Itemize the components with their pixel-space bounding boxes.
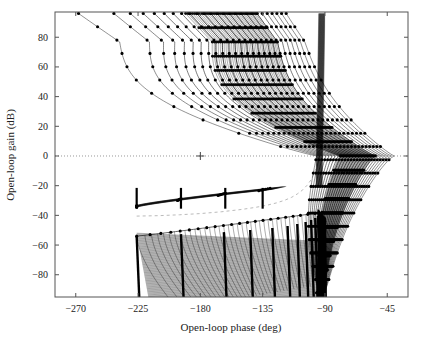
data-point-marker: [192, 52, 195, 55]
data-point-marker: [375, 145, 378, 148]
data-point-marker: [323, 92, 326, 95]
data-point-marker: [311, 118, 314, 121]
data-point-marker: [284, 216, 287, 219]
data-point-marker: [323, 105, 326, 108]
data-point-marker: [346, 145, 349, 148]
data-point-marker: [231, 105, 234, 108]
data-point-marker: [326, 269, 329, 272]
data-point-marker: [254, 220, 257, 223]
data-point-marker: [172, 105, 175, 108]
data-point-marker: [216, 65, 219, 68]
data-point-marker: [221, 78, 224, 81]
data-point-marker: [327, 278, 330, 281]
data-point-marker: [280, 118, 283, 121]
nichols-chart-figure: −270−225−180−135−90−45 806040200−20−40−6…: [0, 0, 425, 347]
data-point-marker: [214, 225, 217, 228]
data-point-marker: [258, 118, 261, 121]
data-point-marker: [313, 212, 316, 215]
data-point-marker: [173, 52, 176, 55]
data-point-marker: [284, 52, 287, 55]
data-point-marker: [207, 52, 210, 55]
data-point-marker: [278, 132, 281, 135]
data-point-marker: [329, 254, 332, 257]
data-point-marker: [246, 52, 249, 55]
data-point-marker: [336, 251, 339, 254]
data-point-marker: [289, 25, 292, 28]
data-point-marker: [292, 215, 295, 218]
data-point-marker: [331, 118, 334, 121]
data-point-marker: [170, 78, 173, 81]
data-point-marker: [225, 118, 228, 121]
data-point-marker: [331, 126, 334, 129]
data-point-marker: [338, 105, 341, 108]
data-point-marker: [387, 158, 390, 161]
data-point-marker: [151, 65, 154, 68]
data-point-marker: [309, 78, 312, 81]
data-point-marker: [279, 52, 282, 55]
data-point-marker: [266, 78, 269, 81]
data-point-marker: [221, 52, 224, 55]
data-point-marker: [171, 92, 174, 95]
data-point-marker: [288, 65, 291, 68]
data-point-marker: [351, 132, 354, 135]
data-point-marker: [238, 222, 241, 225]
data-point-marker: [320, 132, 323, 135]
data-point-marker: [329, 158, 332, 161]
data-point-marker: [367, 158, 370, 161]
data-point-marker: [280, 105, 283, 108]
data-point-marker: [274, 92, 277, 95]
data-point-marker: [244, 105, 247, 108]
data-point-marker: [200, 92, 203, 95]
data-point-marker: [299, 78, 302, 81]
data-point-marker: [286, 105, 289, 108]
data-point-marker: [272, 132, 275, 135]
data-point-marker: [361, 145, 364, 148]
data-point-marker: [255, 132, 258, 135]
data-point-marker: [236, 65, 239, 68]
data-point-marker: [192, 92, 195, 95]
data-point-marker: [264, 118, 267, 121]
data-point-marker: [159, 232, 162, 235]
data-point-marker: [335, 145, 338, 148]
data-point-marker: [376, 158, 379, 161]
data-point-marker: [286, 145, 289, 148]
data-point-marker: [149, 233, 152, 236]
data-point-marker: [158, 78, 161, 81]
data-point-marker: [335, 158, 338, 161]
data-point-marker: [180, 197, 183, 200]
data-point-marker: [299, 214, 302, 217]
data-point-marker: [160, 39, 163, 42]
data-point-marker: [205, 226, 208, 229]
data-point-marker: [214, 78, 217, 81]
data-point-marker: [145, 39, 148, 42]
x-tick-label: −180: [190, 303, 211, 314]
data-point-marker: [216, 118, 219, 121]
data-point-marker: [277, 78, 280, 81]
data-point-marker: [333, 105, 336, 108]
data-point-marker: [358, 158, 361, 161]
data-point-marker: [181, 78, 184, 81]
data-point-marker: [325, 132, 328, 135]
data-point-marker: [252, 52, 255, 55]
data-point-marker: [279, 55, 282, 58]
data-point-marker: [368, 145, 371, 148]
data-point-marker: [297, 132, 300, 135]
data-point-marker: [197, 227, 200, 230]
data-point-marker: [275, 105, 278, 108]
data-point-marker: [343, 145, 346, 148]
data-point-marker: [320, 145, 323, 148]
data-point-marker: [277, 217, 280, 220]
data-point-marker: [268, 52, 271, 55]
data-point-marker: [275, 118, 278, 121]
data-point-marker: [240, 52, 243, 55]
data-point-marker: [355, 132, 358, 135]
data-point-marker: [162, 52, 165, 55]
data-point-marker: [276, 41, 279, 44]
data-point-marker: [385, 158, 388, 161]
data-point-marker: [284, 39, 287, 42]
data-point-marker: [382, 158, 385, 161]
data-point-marker: [288, 132, 291, 135]
data-point-marker: [321, 211, 324, 214]
data-point-marker: [311, 132, 314, 135]
data-point-marker: [183, 52, 186, 55]
